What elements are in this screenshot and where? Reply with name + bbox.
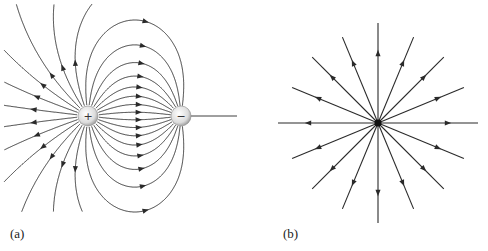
radial-field-line bbox=[378, 123, 444, 189]
field-line bbox=[96, 124, 174, 145]
positive-charge-symbol: + bbox=[83, 110, 92, 123]
radial-field-line bbox=[312, 123, 378, 189]
field-line bbox=[89, 45, 180, 106]
positive-charge: + bbox=[78, 106, 98, 126]
arrowhead-icon bbox=[136, 143, 143, 148]
arrowhead-icon bbox=[136, 125, 143, 130]
radial-field-line bbox=[378, 57, 444, 123]
radial-field-line bbox=[312, 57, 378, 123]
arrowhead-icon bbox=[136, 84, 143, 89]
point-charge bbox=[375, 120, 382, 127]
arrowhead-icon bbox=[445, 120, 451, 125]
field-line bbox=[16, 4, 80, 108]
arrowhead-icon bbox=[375, 50, 380, 56]
arrowhead-icon bbox=[142, 18, 149, 23]
field-line bbox=[4, 120, 77, 150]
arrowhead-icon bbox=[305, 120, 311, 125]
field-line bbox=[99, 112, 171, 115]
arrowhead-icon bbox=[399, 60, 404, 67]
field-line bbox=[4, 117, 77, 127]
arrowhead-icon bbox=[61, 161, 66, 168]
field-line bbox=[53, 5, 82, 107]
point-charge-field-diagram bbox=[278, 23, 478, 223]
arrowhead-icon bbox=[138, 60, 145, 65]
field-line bbox=[96, 87, 174, 108]
field-line bbox=[22, 124, 80, 212]
field-line bbox=[75, 4, 92, 106]
field-line bbox=[89, 126, 180, 187]
panel-b-label: (b) bbox=[283, 226, 298, 242]
arrowhead-icon bbox=[30, 120, 37, 125]
arrowhead-icon bbox=[399, 179, 404, 186]
arrowhead-icon bbox=[136, 110, 142, 115]
arrowhead-icon bbox=[137, 74, 144, 79]
arrowhead-icon bbox=[136, 94, 143, 99]
arrowhead-icon bbox=[352, 179, 357, 186]
arrowhead-icon bbox=[40, 83, 47, 89]
arrowhead-icon bbox=[136, 117, 142, 122]
arrowhead-icon bbox=[73, 60, 78, 67]
field-line bbox=[4, 105, 77, 115]
arrowhead-icon bbox=[50, 72, 56, 79]
field-line bbox=[98, 119, 171, 127]
arrowhead-icon bbox=[137, 153, 144, 158]
panel-a-label: (a) bbox=[10, 226, 24, 242]
arrowhead-icon bbox=[434, 97, 441, 102]
negative-charge-symbol: − bbox=[176, 110, 185, 123]
arrowhead-icon bbox=[352, 60, 357, 67]
field-line bbox=[98, 105, 171, 113]
arrowhead-icon bbox=[50, 153, 56, 160]
field-line bbox=[92, 126, 178, 169]
arrowhead-icon bbox=[30, 107, 37, 112]
field-line bbox=[99, 117, 171, 120]
arrowhead-icon bbox=[315, 97, 322, 102]
arrowhead-icon bbox=[434, 144, 441, 149]
arrowhead-icon bbox=[142, 209, 149, 214]
field-line bbox=[92, 63, 178, 106]
field-lines-figure: +− bbox=[0, 0, 488, 251]
arrowhead-icon bbox=[136, 102, 143, 107]
negative-charge: − bbox=[171, 106, 191, 126]
arrowhead-icon bbox=[375, 190, 380, 196]
field-line bbox=[94, 125, 176, 156]
arrowhead-icon bbox=[136, 133, 143, 138]
field-line bbox=[97, 122, 172, 136]
arrowhead-icon bbox=[40, 143, 47, 149]
dipole-field-diagram: +− bbox=[4, 4, 237, 214]
arrowhead-icon bbox=[34, 132, 41, 137]
arrowhead-icon bbox=[138, 167, 145, 172]
field-line bbox=[4, 82, 77, 112]
field-line bbox=[94, 76, 176, 107]
arrowhead-icon bbox=[34, 95, 41, 100]
field-line bbox=[97, 96, 172, 110]
arrowhead-icon bbox=[73, 166, 78, 173]
arrowhead-icon bbox=[315, 144, 322, 149]
arrowhead-icon bbox=[61, 64, 66, 71]
